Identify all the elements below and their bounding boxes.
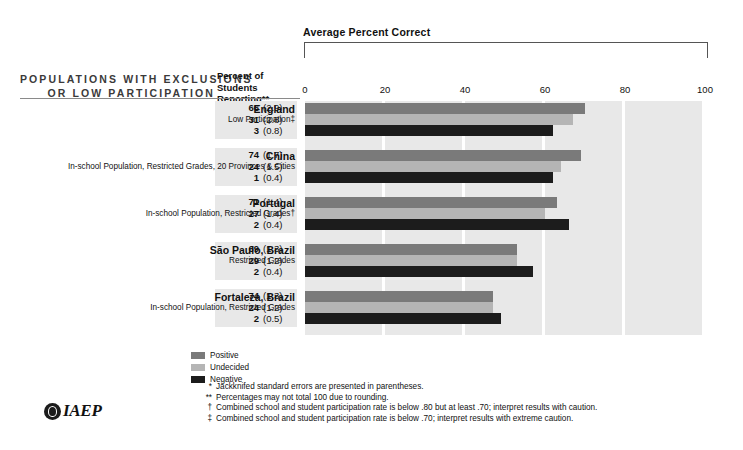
footnote-2: †Combined school and student participati…: [196, 403, 597, 414]
bar-undecided: [305, 208, 545, 219]
country-name: China: [57, 150, 295, 162]
chart-plot-area: 66(2.9)31(2.8)3(0.8)EnglandLow Participa…: [305, 101, 705, 335]
x-axis-tick-40: 40: [460, 84, 471, 95]
x-axis-tick-60: 60: [540, 84, 551, 95]
chart-legend: PositiveUndecidedNegative: [191, 350, 249, 386]
standard-error: (0.4): [259, 219, 293, 231]
footnote-marker: †: [196, 403, 216, 414]
bar-positive: [305, 197, 557, 208]
footnote-3: ‡Combined school and student participati…: [196, 414, 597, 425]
chart-group-0: 66(2.9)31(2.8)3(0.8)EnglandLow Participa…: [305, 101, 705, 141]
chart-group-4: 74(1.3)24(1.2)2(0.5)Fortaleza, BrazilIn-…: [305, 289, 705, 329]
x-axis-ticks: 020406080100: [0, 84, 743, 98]
bar-positive: [305, 103, 585, 114]
chart-group-2: 71(1.4)27(1.4)2(0.4)PortugalIn-school Po…: [305, 195, 705, 235]
x-axis-tick-0: 0: [302, 84, 307, 95]
row-label: ChinaIn-school Population, Restricted Gr…: [57, 150, 295, 173]
population-description: In-school Population, Restricted Grades†: [57, 209, 295, 220]
legend-item-positive: Positive: [191, 350, 249, 361]
chart-title: Average Percent Correct: [303, 26, 430, 38]
standard-error: (0.4): [259, 266, 293, 278]
iaep-logo: IAEP: [44, 401, 101, 421]
population-description: In-school Population, Restricted Grades: [57, 303, 295, 314]
footnotes: *Jackknifed standard errors are presente…: [196, 382, 597, 424]
percent-value-row: 1(0.4): [215, 172, 297, 184]
footnote-marker: *: [196, 382, 216, 393]
percent-value-row: 2(0.4): [215, 266, 297, 278]
bar-negative: [305, 172, 553, 183]
bar-positive: [305, 150, 581, 161]
footnote-0: *Jackknifed standard errors are presente…: [196, 382, 597, 393]
iaep-globe-icon: [44, 403, 61, 420]
bar-undecided: [305, 255, 517, 266]
footnote-1: **Percentages may not total 100 due to r…: [196, 393, 597, 404]
population-description: In-school Population, Restricted Grades,…: [57, 162, 295, 173]
percent-value-row: 2(0.5): [215, 313, 297, 325]
population-description: Restricted Grades: [57, 256, 295, 267]
x-axis-tick-80: 80: [620, 84, 631, 95]
chart-group-3: 69(1.3)29(1.2)2(0.4)São Paulo, BrazilRes…: [305, 242, 705, 282]
standard-error: (0.4): [259, 172, 293, 184]
footnote-marker: **: [196, 393, 216, 404]
iaep-logo-text: IAEP: [63, 401, 101, 421]
row-label: PortugalIn-school Population, Restricted…: [57, 197, 295, 220]
x-axis-tick-100: 100: [697, 84, 713, 95]
bar-undecided: [305, 302, 493, 313]
footnote-marker: ‡: [196, 414, 216, 425]
bar-negative: [305, 219, 569, 230]
x-axis-tick-20: 20: [380, 84, 391, 95]
bar-undecided: [305, 114, 573, 125]
bar-positive: [305, 244, 517, 255]
standard-error: (0.5): [259, 313, 293, 325]
legend-swatch-positive: [191, 352, 205, 359]
legend-swatch-undecided: [191, 364, 205, 371]
country-name: Portugal: [57, 197, 295, 209]
bar-undecided: [305, 161, 561, 172]
row-label: São Paulo, BrazilRestricted Grades: [57, 244, 295, 267]
standard-error: (0.8): [259, 125, 293, 137]
chart-group-1: 74(1.7)24(1.5)1(0.4)ChinaIn-school Popul…: [305, 148, 705, 188]
chart-title-bracket: [304, 42, 708, 58]
footnote-text: Percentages may not total 100 due to rou…: [216, 393, 389, 404]
percent-value-row: 2(0.4): [215, 219, 297, 231]
legend-label: Positive: [210, 351, 239, 360]
bar-negative: [305, 266, 533, 277]
country-name: Fortaleza, Brazil: [57, 291, 295, 303]
header-divider: [20, 98, 300, 99]
country-name: England: [57, 103, 295, 115]
bar-positive: [305, 291, 493, 302]
footnote-text: Combined school and student participatio…: [216, 403, 597, 414]
bar-negative: [305, 313, 501, 324]
row-label: Fortaleza, BrazilIn-school Population, R…: [57, 291, 295, 314]
footnote-text: Jackknifed standard errors are presented…: [216, 382, 424, 393]
legend-label: Undecided: [210, 363, 249, 372]
legend-item-undecided: Undecided: [191, 362, 249, 373]
bar-negative: [305, 125, 553, 136]
country-name: São Paulo, Brazil: [57, 244, 295, 256]
footnote-text: Combined school and student participatio…: [216, 414, 573, 425]
row-label: EnglandLow Participation‡: [57, 103, 295, 126]
population-description: Low Participation‡: [57, 115, 295, 126]
percent-value-row: 3(0.8): [215, 125, 297, 137]
percent-column-header-line1: Percent of: [217, 70, 299, 82]
